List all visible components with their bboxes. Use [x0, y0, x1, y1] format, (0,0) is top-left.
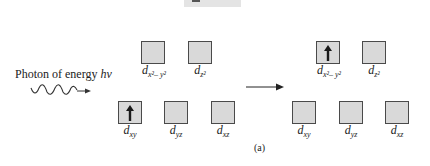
orbital-box-before-dz2 [188, 41, 212, 64]
orbital-label-after-dyz: dyz [345, 123, 358, 139]
orbital-label-after-dxz: dxz [391, 123, 404, 139]
remnant-dash [192, 0, 200, 2]
photon-label: Photon of energy hν [15, 67, 112, 82]
figure-caption: (a) [254, 142, 265, 153]
orbital-label-after-dx2y2: dx²– y² [317, 63, 341, 79]
orbital-box-after-dxy [292, 101, 316, 124]
orbital-label-after-dz2: dz² [368, 63, 380, 79]
orbital-label-after-dxy: dxy [297, 123, 310, 139]
orbital-box-before-dxz [211, 101, 235, 124]
orbital-label-before-dz2: dz² [194, 63, 206, 79]
orbital-label-before-dxz: dxz [217, 123, 230, 139]
orbital-box-before-dx2y2 [141, 41, 165, 64]
electron-spin-up-icon [126, 105, 134, 121]
cropped-figure-remnant [184, 0, 241, 7]
orbital-label-before-dx2y2: dx²– y² [142, 63, 166, 79]
orbital-label-before-dyz: dyz [170, 123, 183, 139]
orbital-box-before-dxy [118, 101, 142, 124]
orbital-box-after-dyz [339, 101, 363, 124]
electron-spin-up-icon [324, 45, 332, 61]
orbital-box-after-dxz [385, 101, 409, 124]
orbital-box-before-dyz [164, 101, 188, 124]
transition-arrow-icon [246, 82, 286, 92]
photon-energy-symbol: hν [100, 67, 111, 81]
orbital-box-after-dz2 [362, 41, 386, 64]
photon-label-text: Photon of energy [15, 67, 100, 81]
orbital-box-after-dx2y2 [316, 41, 340, 64]
orbital-label-before-dxy: dxy [123, 123, 136, 139]
photon-wave-icon [30, 84, 92, 98]
